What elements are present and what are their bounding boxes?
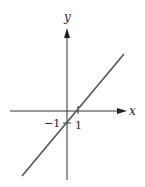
x-axis-arrow-icon [117,108,127,114]
y-axis-arrow-icon [64,28,70,38]
x-axis-label: x [129,104,136,118]
y-tick-label: −1 [44,117,60,130]
x-tick-label: 1 [75,119,82,132]
graph: x y 1 −1 [0,0,145,187]
y-axis-label: y [63,10,71,24]
data-line [22,54,124,176]
